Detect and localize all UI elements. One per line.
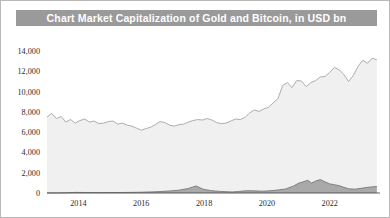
chart-svg: 02,0004,0006,0008,00010,00012,00014,000 …	[1, 27, 389, 217]
y-tick-label: 14,000	[17, 47, 40, 56]
x-tick-label: 2018	[196, 199, 212, 208]
x-axis-tick-labels: 20142016201820202022	[70, 199, 338, 208]
x-tick-label: 2014	[70, 199, 86, 208]
series-area-gold	[47, 58, 377, 193]
y-tick-label: 0	[36, 189, 40, 198]
y-axis-tick-labels: 02,0004,0006,0008,00010,00012,00014,000	[17, 47, 40, 198]
chart-figure: Chart Market Capitalization of Gold and …	[0, 0, 390, 218]
plot-area: 02,0004,0006,0008,00010,00012,00014,000 …	[1, 27, 389, 217]
y-tick-label: 12,000	[17, 67, 40, 76]
y-tick-label: 8,000	[22, 108, 40, 117]
y-tick-label: 4,000	[22, 148, 40, 157]
page-title: Chart Market Capitalization of Gold and …	[47, 13, 347, 24]
x-tick-label: 2020	[259, 199, 275, 208]
x-tick-label: 2016	[133, 199, 149, 208]
series-layer	[47, 58, 377, 193]
y-tick-label: 10,000	[17, 88, 40, 97]
x-tick-label: 2022	[322, 199, 338, 208]
y-tick-label: 2,000	[22, 169, 40, 178]
y-tick-label: 6,000	[22, 128, 40, 137]
chart-title-banner: Chart Market Capitalization of Gold and …	[16, 10, 377, 26]
